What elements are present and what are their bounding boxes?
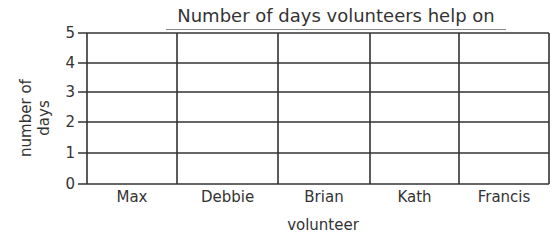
y-tick-1: 1 xyxy=(55,144,75,162)
y-tick-2: 2 xyxy=(55,113,75,131)
category-label: Kath xyxy=(370,188,459,206)
category-label: Max xyxy=(87,188,177,206)
y-tick-4: 4 xyxy=(55,54,75,72)
y-tick-0: 0 xyxy=(55,175,75,193)
x-axis-label: volunteer xyxy=(268,216,378,234)
category-label: Francis xyxy=(459,188,549,206)
category-label: Debbie xyxy=(177,188,278,206)
y-axis-label: number of days xyxy=(17,63,53,173)
y-tick-3: 3 xyxy=(55,83,75,101)
y-tick-5: 5 xyxy=(55,24,75,42)
category-label: Brian xyxy=(278,188,370,206)
